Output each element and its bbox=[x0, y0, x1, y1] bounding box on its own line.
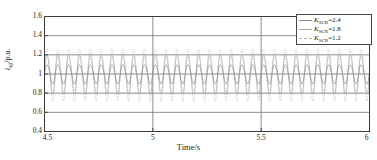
y-tick-label: 1 bbox=[20, 70, 42, 78]
legend-line-swatch-icon bbox=[298, 35, 313, 43]
x-tick-label: 5.5 bbox=[256, 133, 265, 142]
legend-item-label: KSCR=1.8 bbox=[313, 25, 341, 34]
x-tick-label: 6 bbox=[365, 133, 369, 142]
x-tick-label: 4.5 bbox=[43, 133, 52, 142]
y-axis-title-unit: /p.u. bbox=[3, 48, 12, 62]
legend-label-value: =2.4 bbox=[328, 16, 341, 24]
y-tick-label: 0.8 bbox=[20, 89, 42, 97]
legend-line-swatch-icon bbox=[298, 17, 313, 25]
legend-item-1: KSCR=2.4 bbox=[298, 16, 369, 25]
x-tick-label: 5 bbox=[151, 133, 155, 142]
legend-label-value: =1.2 bbox=[328, 34, 341, 42]
legend-item-2: KSCR=1.8 bbox=[298, 25, 369, 34]
legend-line-swatch-icon bbox=[298, 26, 313, 34]
y-axis-title-sub: sg bbox=[7, 63, 13, 68]
legend-label-sub: SCR bbox=[319, 38, 328, 43]
legend-item-label: KSCR=2.4 bbox=[313, 16, 341, 25]
chart-legend: KSCR=2.4KSCR=1.8KSCR=1.2 bbox=[296, 14, 372, 45]
y-axis-title-main: i bbox=[3, 68, 12, 70]
y-tick-label: 0.4 bbox=[20, 127, 42, 135]
y-tick-label: 1.2 bbox=[20, 50, 42, 58]
legend-label-value: =1.8 bbox=[328, 25, 341, 33]
y-axis-ticks: 0.40.60.811.21.41.6 bbox=[18, 0, 42, 160]
y-axis-title: isg/p.u. bbox=[3, 29, 14, 89]
legend-item-3: KSCR=1.2 bbox=[298, 34, 369, 43]
y-tick-label: 1.4 bbox=[20, 31, 42, 39]
x-axis-title: Time/s bbox=[0, 142, 377, 152]
y-tick-label: 0.6 bbox=[20, 108, 42, 116]
y-tick-label: 1.6 bbox=[20, 12, 42, 20]
legend-item-label: KSCR=1.2 bbox=[313, 34, 341, 43]
